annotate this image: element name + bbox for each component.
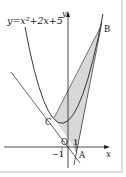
origin-label: O — [61, 137, 68, 147]
diagram: y=x²+2x+5 y x O 1 −1 A B C — [0, 0, 126, 177]
y-axis-arrow — [66, 11, 70, 17]
tick-label-minus-one: −1 — [52, 150, 64, 159]
point-label-c: C — [45, 117, 52, 127]
point-label-a: A — [78, 150, 86, 160]
point-label-b: B — [104, 24, 110, 34]
x-axis-label: x — [106, 149, 111, 159]
y-axis-label: y — [61, 9, 67, 18]
diagram-canvas: y=x²+2x+5 y x O 1 −1 A B C — [0, 0, 126, 177]
shaded-triangle — [54, 28, 100, 152]
tick-label-one: 1 — [73, 138, 78, 147]
equation-label: y=x²+2x+5 — [6, 15, 63, 26]
